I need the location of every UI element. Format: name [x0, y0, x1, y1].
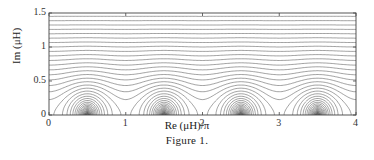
y-tick-label: 0: [41, 108, 46, 119]
x-tick-label: 1: [123, 117, 128, 128]
x-axis-label: Re (μH)/π: [0, 119, 374, 131]
figure-caption-text: Figure 1.: [166, 134, 208, 146]
y-tick-label: 1: [41, 40, 46, 51]
figure-caption: Figure 1.: [0, 134, 374, 146]
y-tick-label: 1.5: [34, 6, 47, 17]
plot-frame: [49, 13, 356, 115]
x-tick-label: 0: [46, 117, 51, 128]
y-axis-label: Im (μH): [10, 28, 22, 64]
y-tick-label: 0.5: [34, 74, 47, 85]
y-axis-label-text: Im (μH): [10, 28, 22, 64]
x-tick-label: 3: [276, 117, 281, 128]
contour-lines: [49, 16, 356, 115]
x-tick-label: 4: [353, 117, 358, 128]
x-tick-label: 2: [200, 117, 205, 128]
